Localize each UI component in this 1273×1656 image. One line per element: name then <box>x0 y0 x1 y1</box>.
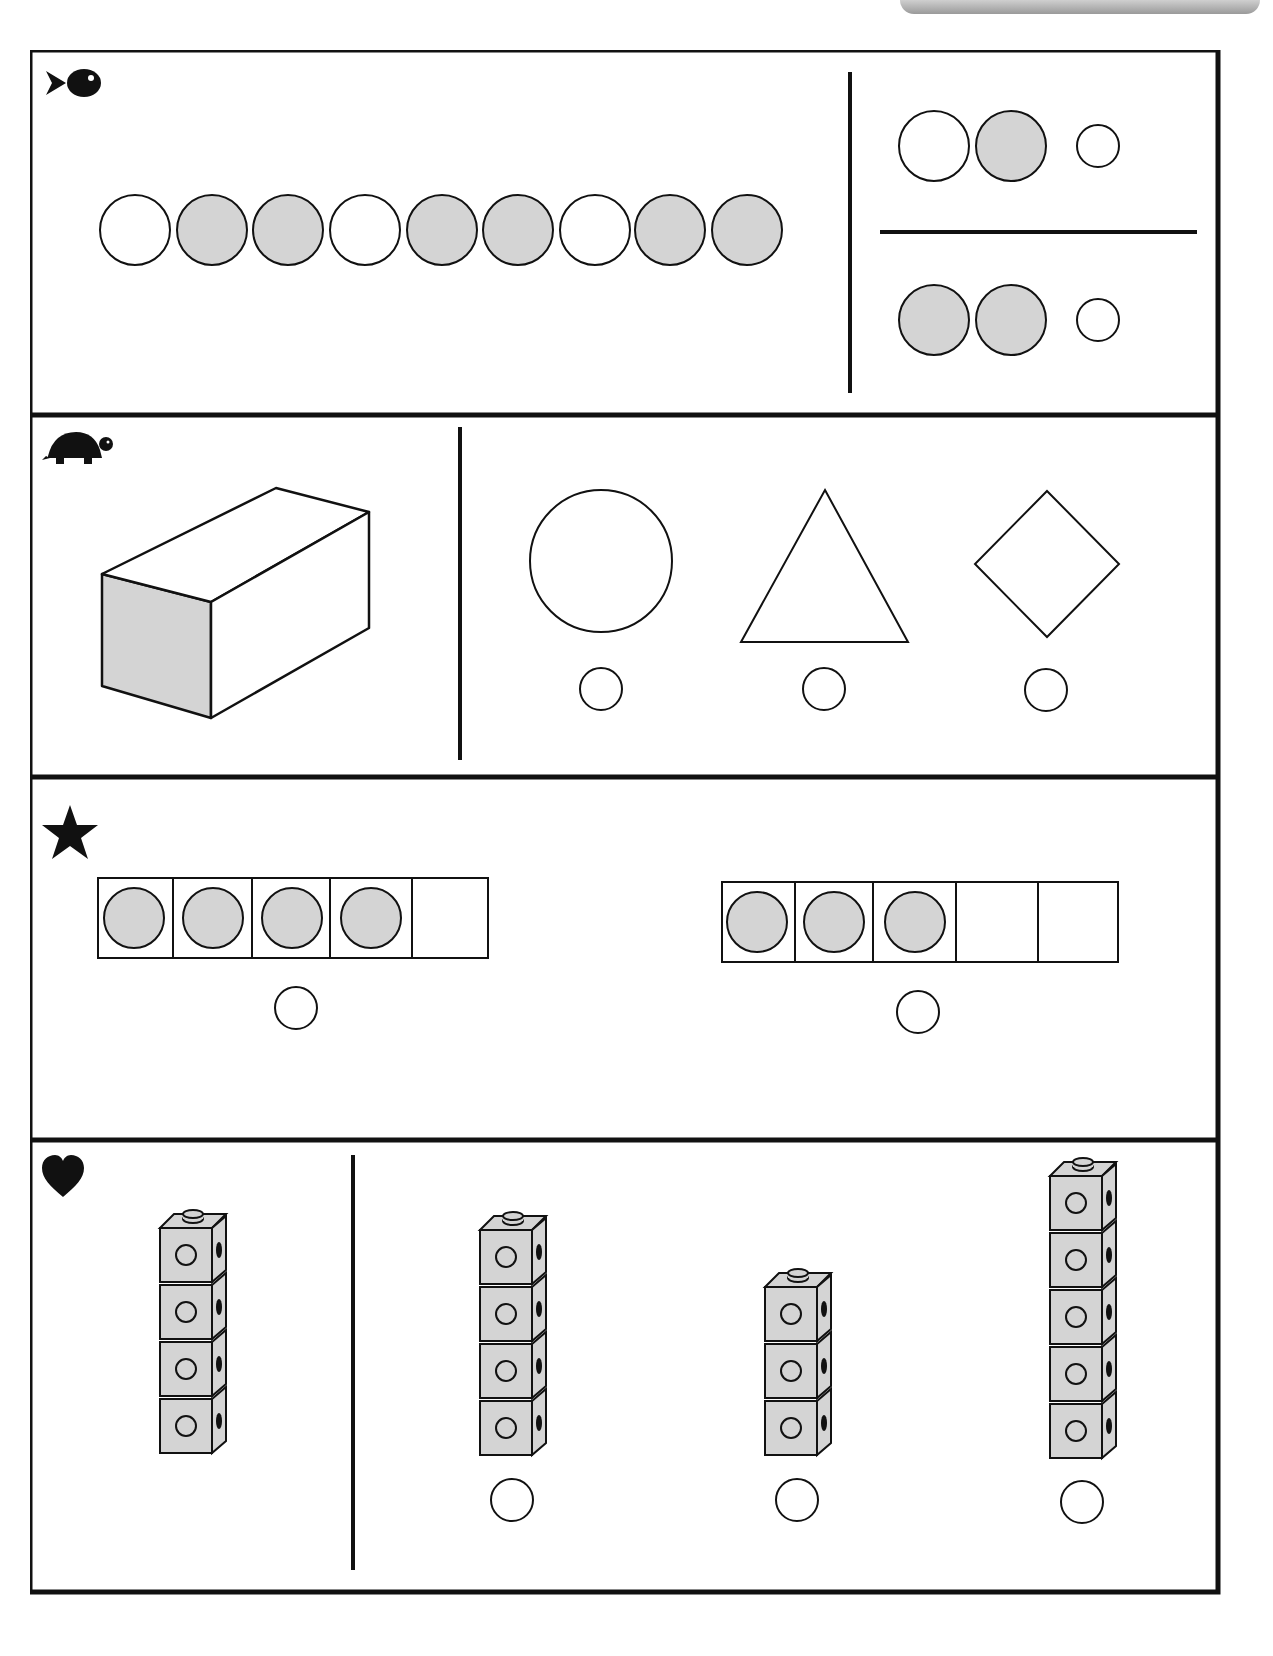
star-icon <box>42 805 98 859</box>
answer-bubble[interactable] <box>491 1479 533 1521</box>
choice-circle <box>530 490 672 710</box>
rectangular-prism <box>102 488 369 718</box>
answer-bubble[interactable] <box>275 987 317 1029</box>
heart-icon <box>42 1155 84 1197</box>
choice-2 <box>899 285 1119 355</box>
model-cube-tower <box>160 1210 226 1453</box>
row-star <box>42 805 1118 1033</box>
choice-tower-3 <box>765 1269 831 1455</box>
row-fish <box>46 69 1197 393</box>
choice-tower-4 <box>480 1212 546 1455</box>
answer-bubble[interactable] <box>1061 1481 1103 1523</box>
five-frame-2 <box>722 882 1118 1033</box>
choice-diamond <box>975 491 1119 711</box>
pattern-strip <box>100 195 782 265</box>
choice-1 <box>899 111 1119 181</box>
fish-icon <box>46 69 101 97</box>
answer-bubble[interactable] <box>1025 669 1067 711</box>
page-tab-edge <box>900 0 1260 14</box>
answer-bubble[interactable] <box>897 991 939 1033</box>
turtle-icon <box>42 432 113 464</box>
choice-triangle <box>741 490 908 710</box>
five-frame-1 <box>98 878 488 1029</box>
choice-tower-5 <box>1050 1158 1116 1458</box>
answer-bubble[interactable] <box>776 1479 818 1521</box>
row-heart <box>42 1155 1116 1570</box>
answer-bubble[interactable] <box>803 668 845 710</box>
worksheet <box>30 50 1248 1623</box>
answer-bubble[interactable] <box>1077 299 1119 341</box>
answer-bubble[interactable] <box>580 668 622 710</box>
row-turtle <box>42 427 1119 760</box>
answer-bubble[interactable] <box>1077 125 1119 167</box>
